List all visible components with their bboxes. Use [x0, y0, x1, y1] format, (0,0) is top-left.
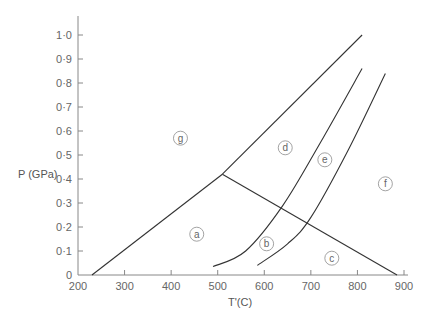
- y-tick-label: 0·8: [56, 77, 72, 89]
- curve-1-line: [213, 69, 362, 267]
- y-tick-label: 0·1: [56, 245, 72, 257]
- boundary-upper-line: [222, 35, 362, 174]
- x-tick-label: 600: [255, 280, 273, 292]
- x-ticks: 200300400500600700800900: [69, 270, 413, 292]
- region-f-label: f: [384, 178, 387, 189]
- y-tick-label: 0·2: [56, 221, 72, 233]
- axes: [78, 16, 408, 275]
- boundary-descending-line: [222, 174, 397, 275]
- y-ticks: 00·10·20·30·40·50·60·70·80·91·0: [56, 29, 83, 281]
- region-d-label: d: [282, 142, 288, 153]
- y-tick-label: 0·5: [56, 149, 72, 161]
- region-labels: abcdefg: [173, 131, 392, 265]
- region-c-label: c: [329, 253, 334, 264]
- y-tick-label: 0·6: [56, 125, 72, 137]
- region-e-label: e: [322, 154, 328, 165]
- curve-2-line: [257, 73, 385, 265]
- y-tick-label: 0·7: [56, 101, 72, 113]
- phase-boundaries: [92, 35, 397, 275]
- boundary-lower-left-line: [92, 174, 222, 275]
- y-tick-label: 0·4: [56, 173, 72, 185]
- region-b-label: b: [264, 238, 270, 249]
- x-tick-label: 400: [162, 280, 180, 292]
- x-tick-label: 700: [302, 280, 320, 292]
- x-tick-label: 900: [395, 280, 413, 292]
- region-a-label: a: [194, 229, 200, 240]
- x-tick-label: 500: [209, 280, 227, 292]
- x-tick-label: 800: [348, 280, 366, 292]
- y-axis-label: P (GPa): [18, 168, 58, 180]
- y-tick-label: 0·3: [56, 197, 72, 209]
- x-tick-label: 200: [69, 280, 87, 292]
- phase-diagram: 00·10·20·30·40·50·60·70·80·91·0 20030040…: [0, 0, 426, 324]
- y-tick-label: 0·9: [56, 53, 72, 65]
- x-axis-label: T'(C): [228, 296, 252, 308]
- x-tick-label: 300: [115, 280, 133, 292]
- y-tick-label: 1·0: [56, 29, 72, 41]
- region-g-label: g: [178, 133, 184, 144]
